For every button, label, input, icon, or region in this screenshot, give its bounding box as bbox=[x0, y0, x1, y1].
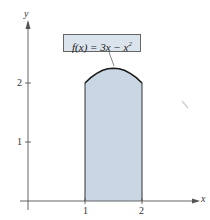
x-axis-arrow-icon bbox=[192, 199, 200, 204]
x-tick-label-2: 2 bbox=[139, 206, 144, 216]
x-axis-label: x bbox=[201, 194, 205, 204]
shaded-area bbox=[85, 68, 142, 201]
chart-canvas bbox=[0, 0, 210, 220]
y-tick-label-1: 1 bbox=[17, 137, 22, 147]
callout-pointer bbox=[109, 52, 114, 66]
y-tick-label-2: 2 bbox=[17, 78, 22, 88]
y-axis-arrow-icon bbox=[26, 20, 31, 29]
x-tick-label-1: 1 bbox=[83, 206, 88, 216]
function-label: f(x) = 3x − x2 bbox=[63, 34, 141, 52]
stray-mark bbox=[182, 101, 188, 108]
y-axis-label: y bbox=[24, 9, 28, 19]
